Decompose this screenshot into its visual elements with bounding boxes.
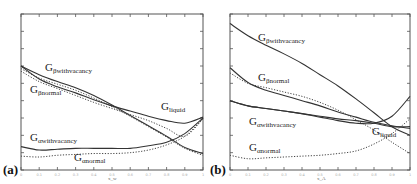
panel-a-xlabel: x_w — [108, 176, 117, 181]
x-tick-label: 0.1 — [245, 173, 251, 177]
panel-a-label: (a) — [3, 162, 18, 178]
x-tick-label: 0.2 — [55, 173, 61, 177]
x-tick-label: 0.1 — [36, 173, 42, 177]
label-liquid-b: Gliquid — [372, 126, 396, 139]
x-tick-label: 0.9 — [389, 173, 395, 177]
x-tick-label: 1 — [409, 173, 411, 177]
panel-a: 00.10.20.30.40.50.60.70.80.91 (a) x_w Gβ… — [0, 0, 207, 184]
label-beta-normal-a: Gβnormal — [30, 84, 61, 97]
label-alpha-withvacancy-a: Gαwithvacancy — [30, 132, 77, 145]
x-tick-label: 1 — [202, 173, 204, 177]
x-tick-label: 0.7 — [353, 173, 359, 177]
label-alpha-normal-b: Gαnormal — [249, 142, 280, 155]
label-beta-normal-b: Gβnormal — [258, 72, 289, 85]
x-tick-label: 0 — [20, 173, 22, 177]
label-alpha-normal-a: Gαnormal — [74, 152, 105, 165]
x-tick-label: 0.8 — [371, 173, 377, 177]
x-tick-label: 0.9 — [182, 173, 188, 177]
x-tick-label: 0.2 — [263, 173, 269, 177]
x-tick-label: 0.4 — [91, 173, 97, 177]
panel-b: 00.10.20.30.40.50.60.70.80.91 (b) x_A Gβ… — [207, 0, 417, 184]
x-tick-label: 0.4 — [299, 173, 305, 177]
x-tick-label: 0.3 — [281, 173, 287, 177]
x-tick-label: 0.6 — [127, 173, 133, 177]
x-tick-label: 0.6 — [335, 173, 341, 177]
x-tick-label: 0 — [229, 173, 231, 177]
label-alpha-withvacancy-b: Gαwithvacancy — [249, 116, 296, 129]
plot-b: 00.10.20.30.40.50.60.70.80.91 — [207, 0, 417, 184]
panel-b-label: (b) — [210, 162, 226, 178]
label-beta-withvacancy-a: Gβwithvacancy — [45, 62, 92, 75]
panel-b-xlabel: x_A — [317, 176, 326, 181]
label-liquid-a: Gliquid — [161, 101, 185, 114]
x-tick-label: 0.3 — [73, 173, 79, 177]
x-tick-label: 0.7 — [146, 173, 152, 177]
x-tick-label: 0.8 — [164, 173, 170, 177]
label-beta-withvacancy-b: Gβwithvacancy — [258, 32, 305, 45]
